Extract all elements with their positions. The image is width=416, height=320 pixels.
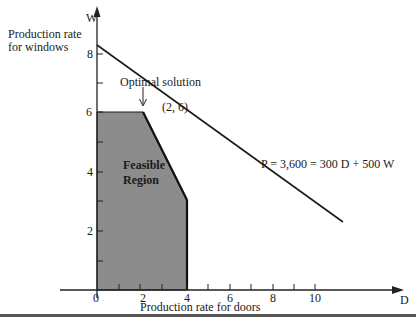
x-tick-label-8: 8 [270,292,276,304]
y-tick-label-8: 8 [87,48,93,60]
x-axis-title: Production rate for doors [140,301,260,314]
y-tick-label-2: 2 [87,225,93,237]
y-axis-title-line2: for windows [8,41,82,54]
y-axis-letter: W [86,12,97,25]
y-axis-title: Production rate for windows [8,28,82,54]
x-tick-label-10: 10 [309,292,321,304]
feasible-region-fill [97,112,187,290]
y-tick-label-4: 4 [87,166,93,178]
objective-equation-label: P = 3,600 = 300 D + 500 W [261,158,394,171]
x-axis-letter: D [400,294,409,307]
bottom-divider [0,314,416,317]
x-tick-label-0: 0 [93,292,99,304]
feasible-region-label-line1: Feasible [123,158,165,173]
y-tick-label-6: 6 [86,106,92,118]
optimal-point-label: (2, 6) [162,101,188,114]
feasible-region-label-line2: Region [123,173,165,188]
feasible-region-label: Feasible Region [123,158,165,188]
optimal-solution-label: Optimal solution [120,76,201,89]
